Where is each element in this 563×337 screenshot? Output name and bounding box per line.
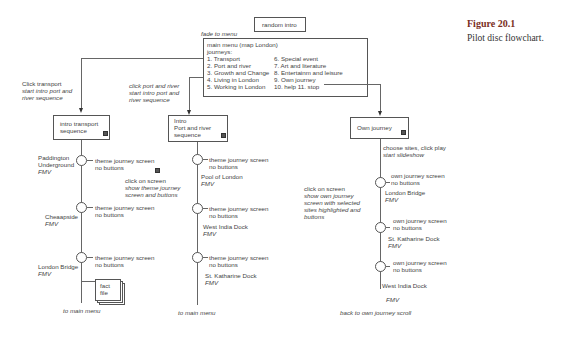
connector-transport-v — [81, 58, 82, 110]
node-fmv: FMV — [203, 230, 216, 237]
node-circle — [192, 203, 203, 214]
own-journey-box: Own journey — [350, 117, 409, 139]
node-fmv: FMV — [386, 296, 399, 303]
node-buttons: no buttons — [393, 266, 422, 273]
node-connector — [87, 207, 93, 208]
node-connector — [87, 160, 93, 161]
node-connector — [203, 208, 208, 209]
node-buttons: no buttons — [209, 212, 238, 219]
node-fmv: FMV — [205, 279, 218, 286]
node-buttons: no buttons — [95, 261, 124, 268]
connector-port-h — [189, 77, 203, 78]
transport-label-action: river sequence — [22, 94, 63, 101]
node-fmv: FMV — [385, 196, 398, 203]
menu-item: 5. Working in London — [207, 83, 265, 90]
fact-file-label: file — [100, 289, 108, 296]
node-place: West India Dock — [382, 282, 427, 289]
node-buttons: no buttons — [209, 261, 238, 268]
transport-end-label: to main menu — [63, 307, 101, 314]
fade-label: fade to menu — [201, 30, 237, 37]
arrow-down-icon — [79, 108, 83, 113]
node-fmv: FMV — [201, 180, 214, 187]
node-connector — [203, 257, 208, 258]
connector-port-v — [189, 77, 190, 111]
node-fmv: FMV — [38, 270, 51, 277]
node-connector — [87, 257, 93, 258]
node-fmv: FMV — [45, 220, 58, 227]
node-buttons: no buttons — [95, 164, 124, 171]
figure-caption: Pilot disc flowchart. — [467, 33, 544, 43]
fact-file-connector — [81, 281, 95, 282]
click-note: screen and buttons — [125, 191, 178, 198]
figure-number: Figure 20.1 — [467, 18, 515, 29]
node-buttons: no buttons — [95, 211, 124, 218]
own-end-label: back to own journey scroll — [340, 309, 411, 316]
intro-port-box: Intro Port and river sequence — [168, 115, 228, 142]
menu-item: 10. help 11. stop — [274, 83, 319, 90]
random-intro-box: random intro — [254, 17, 306, 32]
node-connector — [386, 182, 390, 183]
node-buttons: no buttons — [209, 163, 238, 170]
box-label: Own journey — [357, 124, 392, 131]
node-fmv: FMV — [388, 242, 401, 249]
button-icon — [155, 168, 160, 173]
button-icon — [221, 133, 226, 138]
main-menu-box: main menu (map London) journeys: 1. Tran… — [203, 38, 368, 97]
node-connector — [386, 227, 390, 228]
node-connector — [386, 266, 390, 267]
node-connector — [203, 159, 208, 160]
button-icon — [401, 130, 406, 135]
node-buttons: no buttons — [391, 179, 420, 186]
own-label-action: start slideshow — [383, 151, 424, 158]
random-intro-label: random intro — [262, 21, 297, 28]
fact-file-box: fact file — [95, 279, 121, 301]
own-note: buttons — [304, 213, 324, 220]
node-circle — [375, 261, 386, 272]
node-buttons: no buttons — [393, 224, 422, 231]
port-end-label: to main menu — [178, 309, 216, 316]
node-circle — [192, 154, 203, 165]
node-circle — [375, 222, 386, 233]
connector-own-h — [324, 84, 381, 85]
port-label-action: river sequence — [129, 96, 170, 103]
connector-transport-h — [81, 58, 203, 59]
node-circle — [76, 252, 87, 263]
port-timeline — [197, 142, 198, 305]
box-label: sequence — [60, 127, 87, 134]
connector-own-v — [380, 84, 381, 112]
node-circle — [76, 202, 87, 213]
arrow-down-icon — [378, 111, 382, 116]
node-circle — [76, 155, 87, 166]
node-circle — [192, 252, 203, 263]
node-circle — [375, 177, 386, 188]
box-label: sequence — [174, 131, 201, 138]
intro-transport-box: intro transport sequence — [53, 115, 110, 140]
node-fmv: FMV — [38, 168, 51, 175]
button-icon — [103, 131, 108, 136]
